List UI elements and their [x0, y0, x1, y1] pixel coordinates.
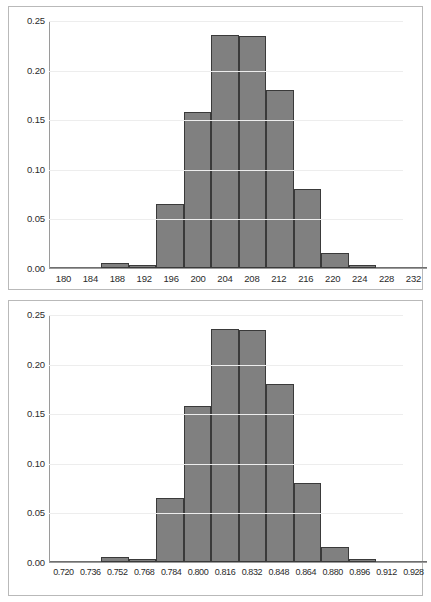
histogram-bar	[101, 557, 129, 562]
histogram-bar	[156, 204, 184, 268]
histogram-bar	[349, 265, 377, 268]
gridline	[49, 120, 403, 121]
histogram-chart-bottom: 0.000.050.100.150.200.25 0.7200.7360.752…	[9, 301, 422, 595]
bar-series-bottom	[50, 315, 427, 562]
x-tick-label: 0.784	[158, 567, 185, 577]
x-tick-label: 0.752	[104, 567, 131, 577]
x-tick-label: 0.800	[185, 567, 212, 577]
x-tick-label: 184	[77, 273, 104, 284]
x-tick-label: 224	[346, 273, 373, 284]
histogram-bar	[321, 547, 349, 562]
y-tick-label: 0.20	[27, 360, 45, 370]
x-tick-label: 188	[104, 273, 131, 284]
x-tick-label: 0.816	[212, 567, 239, 577]
y-tick-label: 0.25	[27, 310, 45, 320]
histogram-bar	[266, 384, 294, 562]
x-axis-labels-bottom: 0.7200.7360.7520.7680.7840.8000.8160.832…	[50, 567, 427, 577]
histogram-bar	[211, 329, 239, 562]
x-tick-label: 0.928	[400, 567, 427, 577]
y-axis-labels-bottom: 0.000.050.100.150.200.25	[13, 301, 45, 595]
plot-area-bottom	[49, 315, 427, 563]
gridline	[49, 464, 403, 465]
histogram-bar	[211, 35, 239, 268]
histogram-bar	[76, 267, 102, 268]
y-tick-label: 0.20	[27, 66, 45, 76]
gridline	[49, 21, 403, 22]
y-tick-label: 0.00	[27, 264, 45, 274]
x-tick-label: 204	[212, 273, 239, 284]
histogram-bar	[156, 498, 184, 562]
y-tick-label: 0.00	[27, 558, 45, 568]
x-tick-label: 196	[158, 273, 185, 284]
y-tick-label: 0.05	[27, 508, 45, 518]
histogram-panel-bottom: 0.000.050.100.150.200.25 0.7200.7360.752…	[8, 300, 423, 596]
x-tick-label: 220	[319, 273, 346, 284]
histogram-bar	[402, 267, 428, 268]
x-tick-label: 0.864	[292, 567, 319, 577]
x-tick-label: 180	[50, 273, 77, 284]
histogram-bar	[50, 267, 76, 268]
x-axis-line-top	[49, 268, 427, 269]
x-tick-label: 200	[185, 273, 212, 284]
histogram-bar	[184, 112, 212, 268]
x-tick-label: 0.896	[346, 567, 373, 577]
y-tick-label: 0.15	[27, 409, 45, 419]
histogram-bar	[376, 267, 402, 268]
x-tick-label: 212	[265, 273, 292, 284]
x-tick-label: 232	[400, 273, 427, 284]
gridline	[49, 414, 403, 415]
y-tick-label: 0.10	[27, 165, 45, 175]
gridline	[49, 315, 403, 316]
x-axis-labels-top: 1801841881921962002042082122162202242282…	[50, 273, 427, 284]
x-tick-label: 0.736	[77, 567, 104, 577]
y-tick-label: 0.10	[27, 459, 45, 469]
histogram-bar	[266, 90, 294, 268]
plot-area-top	[49, 21, 427, 269]
histogram-bar	[402, 561, 428, 562]
x-tick-label: 0.720	[50, 567, 77, 577]
gridline	[49, 513, 403, 514]
histogram-bar	[129, 559, 157, 562]
histogram-bar	[376, 561, 402, 562]
bar-series-top	[50, 21, 427, 268]
x-tick-label: 0.880	[319, 567, 346, 577]
x-tick-label: 0.848	[265, 567, 292, 577]
histogram-bar	[184, 406, 212, 562]
x-tick-label: 0.832	[238, 567, 265, 577]
histogram-chart-top: 0.000.050.100.150.200.25 180184188192196…	[9, 7, 422, 289]
histogram-bar	[321, 253, 349, 268]
gridline	[49, 71, 403, 72]
x-tick-label: 0.768	[131, 567, 158, 577]
histogram-page: 0.000.050.100.150.200.25 180184188192196…	[0, 0, 431, 602]
histogram-bar	[349, 559, 377, 562]
x-tick-label: 0.912	[373, 567, 400, 577]
x-tick-label: 192	[131, 273, 158, 284]
gridline	[49, 219, 403, 220]
x-tick-label: 228	[373, 273, 400, 284]
gridline	[49, 170, 403, 171]
x-axis-line-bottom	[49, 562, 427, 563]
histogram-bar	[76, 561, 102, 562]
y-tick-label: 0.15	[27, 115, 45, 125]
histogram-bar	[129, 265, 157, 268]
x-tick-label: 208	[238, 273, 265, 284]
histogram-panel-top: 0.000.050.100.150.200.25 180184188192196…	[8, 6, 423, 290]
histogram-bar	[50, 561, 76, 562]
x-tick-label: 216	[292, 273, 319, 284]
gridline	[49, 365, 403, 366]
histogram-bar	[294, 189, 322, 268]
y-tick-label: 0.05	[27, 214, 45, 224]
y-axis-labels-top: 0.000.050.100.150.200.25	[13, 7, 45, 289]
histogram-bar	[101, 263, 129, 268]
histogram-bar	[294, 483, 322, 562]
y-tick-label: 0.25	[27, 16, 45, 26]
